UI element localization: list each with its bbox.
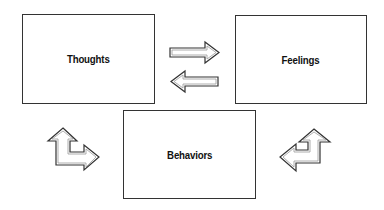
cbt-triangle-diagram: Thoughts Feelings Behaviors <box>0 0 384 210</box>
bent-arrow-right-icon <box>0 0 384 210</box>
